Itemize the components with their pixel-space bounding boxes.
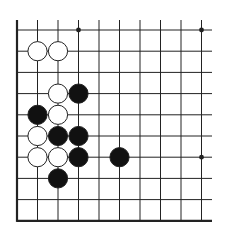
- black-stone: [69, 148, 88, 167]
- white-stone: [28, 126, 47, 145]
- white-stone: [48, 84, 67, 103]
- black-stone: [28, 105, 47, 124]
- white-stone: [48, 42, 67, 61]
- black-stone: [69, 84, 88, 103]
- black-stone: [48, 126, 67, 145]
- black-stone: [69, 126, 88, 145]
- black-stone: [110, 148, 129, 167]
- star-point-icon: [199, 155, 204, 160]
- star-point-icon: [199, 28, 204, 33]
- black-stone: [48, 169, 67, 188]
- go-board: [0, 0, 228, 239]
- white-stone: [48, 105, 67, 124]
- white-stone: [28, 148, 47, 167]
- star-point-icon: [76, 28, 81, 33]
- white-stone: [48, 148, 67, 167]
- white-stone: [28, 42, 47, 61]
